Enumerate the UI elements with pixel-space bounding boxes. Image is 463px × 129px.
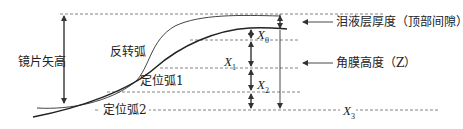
x3-label: X3 bbox=[342, 104, 356, 121]
alignment-curve-2-label: 定位弧2 bbox=[101, 104, 149, 116]
x1-label: X1 bbox=[224, 55, 236, 72]
x0-label: X0 bbox=[257, 28, 269, 45]
tear-layer-label: 泪液层厚度（顶部间隙） bbox=[336, 16, 463, 28]
lens-sag-label: 镜片矢高 bbox=[18, 56, 66, 68]
lens-curve bbox=[37, 15, 280, 108]
cornea-curve bbox=[33, 28, 287, 117]
alignment-curve-1-label: 定位弧1 bbox=[140, 75, 184, 87]
corneal-height-label: 角膜高度（Z） bbox=[336, 57, 416, 69]
x2-label: X2 bbox=[257, 78, 269, 95]
reverse-curve-label: 反转弧 bbox=[110, 46, 146, 58]
